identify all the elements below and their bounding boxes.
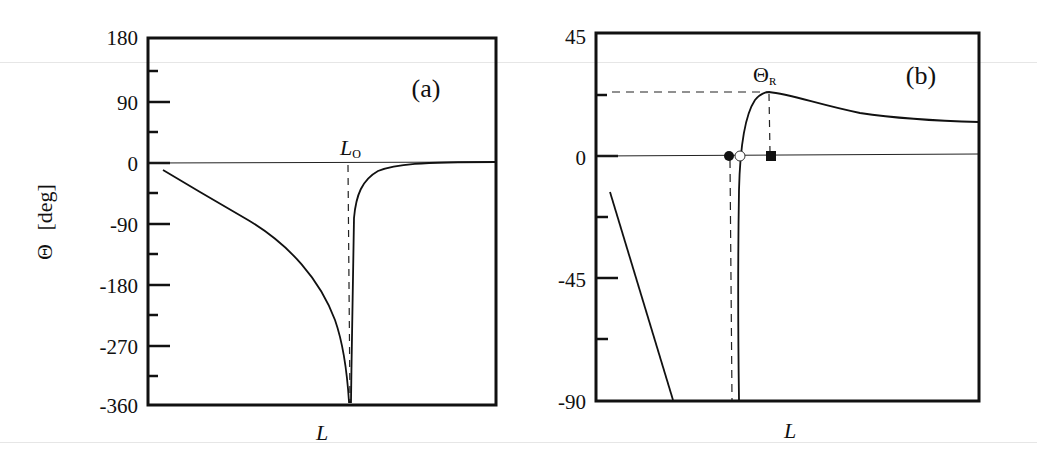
panel-a-frame [148, 38, 496, 405]
open-circle-marker [735, 151, 745, 161]
panel-b: 45 0 -45 -90 (b) ΘR [558, 25, 979, 443]
panel-a-tickmarks [148, 71, 170, 376]
panel-b-right-branch [738, 92, 979, 400]
panel-a-xlabel: L [315, 420, 328, 445]
ytick-label: -180 [100, 274, 139, 298]
panel-b-left-branch [610, 192, 673, 400]
ytick-label: -45 [558, 268, 586, 292]
ylabel-symbol: Θ [32, 244, 57, 260]
ytick-label: 180 [107, 26, 139, 50]
panel-a-yticks: 180 90 0 -90 -180 -270 -360 [100, 26, 139, 418]
panel-a: Θ [deg] 180 90 0 -90 -180 -270 -360 [32, 26, 496, 445]
panel-a-lo-label: LO [339, 135, 361, 161]
panel-b-thetar-vertical-dashed [769, 94, 770, 152]
panel-a-tag: (a) [412, 74, 441, 103]
ytick-label: -270 [100, 335, 139, 359]
ylabel-unit: [deg] [32, 184, 57, 230]
ytick-label: 45 [565, 25, 586, 49]
svg-text:Θ [deg]: Θ [deg] [32, 184, 57, 260]
panel-b-zero-line [596, 154, 979, 156]
panel-b-xlabel: L [783, 418, 796, 443]
ytick-label: 0 [128, 152, 139, 176]
ytick-label: -360 [100, 394, 139, 418]
ytick-label: 0 [576, 146, 587, 170]
panel-b-filled-circle-dashed [730, 160, 732, 400]
ytick-label: 90 [117, 91, 138, 115]
panel-b-tag: (b) [906, 61, 936, 90]
panel-b-thetar-label: ΘR [753, 62, 777, 87]
ytick-label: -90 [110, 213, 138, 237]
filled-square-marker [766, 151, 776, 161]
filled-circle-marker [724, 151, 734, 161]
panel-a-ylabel: Θ [deg] [32, 184, 57, 260]
panel-a-lo-dashed-line [348, 165, 350, 403]
panel-a-curve [163, 162, 496, 402]
figure: Θ [deg] 180 90 0 -90 -180 -270 -360 [0, 0, 1037, 463]
panel-b-yticks: 45 0 -45 -90 [558, 25, 586, 414]
panel-b-tickmarks [596, 95, 618, 339]
ytick-label: -90 [558, 390, 586, 414]
